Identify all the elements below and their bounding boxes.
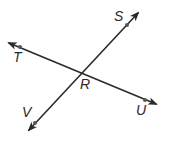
intersecting-lines-diagram: T U S V R bbox=[0, 0, 169, 141]
label-t: T bbox=[13, 49, 23, 65]
label-u: U bbox=[136, 102, 147, 118]
line-sv bbox=[29, 13, 138, 130]
label-s: S bbox=[114, 8, 124, 24]
label-r-intersection: R bbox=[80, 76, 90, 92]
label-v: V bbox=[22, 104, 33, 120]
point-v bbox=[33, 121, 37, 125]
point-s bbox=[125, 23, 129, 27]
